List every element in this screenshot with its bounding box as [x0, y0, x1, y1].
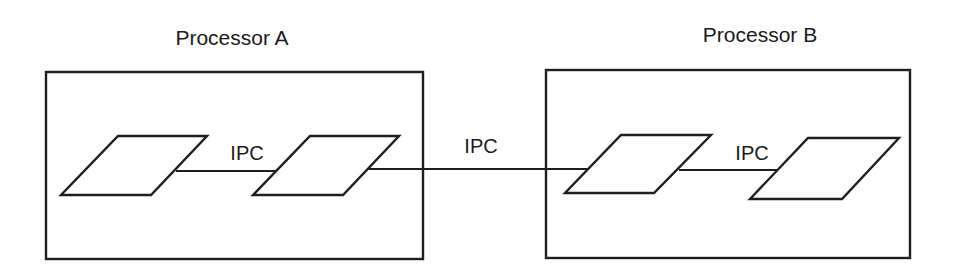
ipc-label-a1-a2: IPC	[230, 142, 263, 164]
ipc-label-a2-b1: IPC	[464, 135, 497, 157]
process-a2	[253, 136, 399, 195]
process-b1	[565, 135, 711, 193]
process-b2	[750, 138, 899, 199]
ipc-label-b1-b2: IPC	[735, 142, 768, 164]
process-a1	[61, 136, 207, 195]
processor-a-label: Processor A	[175, 26, 288, 49]
processor-b-label: Processor B	[703, 23, 817, 46]
ipc-diagram: Processor A Processor B IPC IPC IPC	[0, 0, 957, 276]
